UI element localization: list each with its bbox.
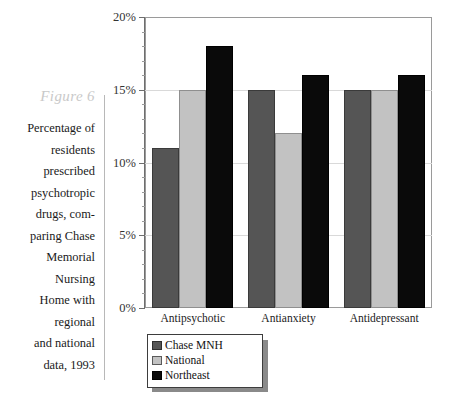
legend-label: Chase MNH bbox=[165, 340, 223, 352]
bar bbox=[152, 148, 179, 308]
chart-plot-area: 0%5%10%15%20% AntipsychoticAntianxietyAn… bbox=[145, 17, 432, 308]
caption-line: data, 1993 bbox=[3, 355, 95, 377]
y-axis-label: 20% bbox=[113, 10, 136, 25]
bar-group bbox=[344, 17, 425, 308]
chart-legend: Chase MNHNationalNortheast bbox=[147, 334, 263, 388]
bar-series-layer bbox=[145, 17, 432, 308]
y-axis-label: 10% bbox=[113, 155, 136, 170]
bar bbox=[179, 90, 206, 308]
caption-line: Percentage of bbox=[3, 118, 95, 140]
y-axis-label: 0% bbox=[119, 301, 136, 316]
figure-caption: Percentage ofresidentsprescribedpsychotr… bbox=[3, 118, 95, 376]
caption-line: Home with bbox=[3, 290, 95, 312]
legend-label: National bbox=[165, 355, 205, 367]
x-axis-category-label: Antipsychotic bbox=[161, 312, 226, 324]
bar bbox=[398, 75, 425, 308]
legend-item: National bbox=[152, 353, 257, 368]
bar bbox=[206, 46, 233, 308]
caption-line: regional bbox=[3, 312, 95, 334]
caption-line: and national bbox=[3, 333, 95, 355]
caption-line: drugs, com- bbox=[3, 204, 95, 226]
bar-group bbox=[248, 17, 329, 308]
x-axis-category-label: Antianxiety bbox=[261, 312, 315, 324]
caption-divider bbox=[104, 95, 105, 380]
legend-swatch-icon bbox=[152, 341, 162, 350]
legend-swatch-icon bbox=[152, 356, 162, 365]
caption-line: prescribed bbox=[3, 161, 95, 183]
bar bbox=[371, 90, 398, 308]
bar bbox=[344, 90, 371, 308]
legend-swatch-icon bbox=[152, 371, 162, 380]
legend-label: Northeast bbox=[165, 370, 210, 382]
figure-number-label: Figure 6 bbox=[40, 88, 95, 105]
y-axis-label: 15% bbox=[113, 82, 136, 97]
y-tick-major bbox=[139, 308, 145, 309]
caption-line: Memorial bbox=[3, 247, 95, 269]
bar bbox=[275, 133, 302, 308]
x-axis-category-label: Antidepressant bbox=[350, 312, 419, 324]
bar bbox=[302, 75, 329, 308]
bar-group bbox=[152, 17, 233, 308]
caption-column: Figure 6 Percentage ofresidentsprescribe… bbox=[0, 0, 105, 402]
bar bbox=[248, 90, 275, 308]
caption-line: psychotropic bbox=[3, 183, 95, 205]
legend-item: Northeast bbox=[152, 368, 257, 383]
caption-line: residents bbox=[3, 140, 95, 162]
caption-line: paring Chase bbox=[3, 226, 95, 248]
y-axis-label: 5% bbox=[119, 228, 136, 243]
figure-page: Figure 6 Percentage ofresidentsprescribe… bbox=[0, 0, 451, 402]
legend-item: Chase MNH bbox=[152, 338, 257, 353]
caption-line: Nursing bbox=[3, 269, 95, 291]
